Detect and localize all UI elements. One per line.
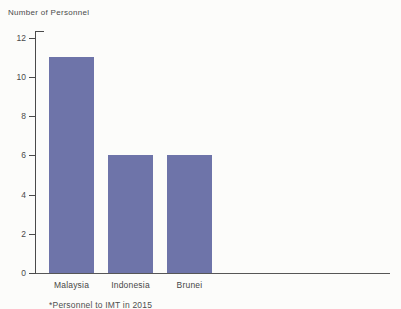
footnote-caption: *Personnel to IMT in 2015: [49, 300, 152, 309]
y-tick-label: 6: [6, 151, 26, 160]
y-tick: [29, 155, 36, 156]
y-tick: [29, 273, 36, 274]
y-tick: [29, 38, 36, 39]
bar-brunei: [167, 155, 212, 273]
y-tick-label: 4: [6, 191, 26, 200]
y-tick-label: 8: [6, 112, 26, 121]
chart-title: Number of Personnel: [8, 8, 89, 17]
y-tick: [29, 195, 36, 196]
bar-malaysia: [49, 57, 94, 273]
y-axis-top-cap: [35, 31, 44, 32]
y-axis-line: [35, 31, 36, 274]
y-tick-label: 2: [6, 230, 26, 239]
y-tick-label: 12: [6, 34, 26, 43]
y-tick: [29, 77, 36, 78]
scanned-bar-chart-figure: Number of Personnel 121086420 MalaysiaIn…: [0, 0, 401, 309]
y-tick: [29, 234, 36, 235]
x-category-label-brunei: Brunei: [155, 280, 225, 290]
bar-indonesia: [108, 155, 153, 273]
y-tick: [29, 116, 36, 117]
y-tick-label: 0: [6, 269, 26, 278]
x-axis-baseline: [35, 273, 390, 274]
y-tick-label: 10: [6, 73, 26, 82]
